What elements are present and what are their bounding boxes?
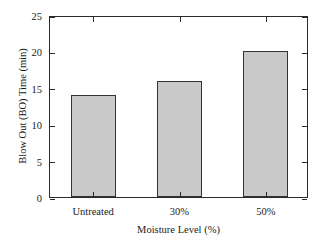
x-axis-tick — [180, 192, 181, 197]
y-axis-tick — [50, 17, 55, 18]
x-axis-tick-label: Untreated — [50, 206, 136, 217]
x-axis-tick-top — [180, 17, 181, 22]
x-axis-tick-top — [93, 17, 94, 22]
bar — [243, 51, 288, 197]
y-axis-tick-label: 25 — [32, 12, 43, 23]
y-axis-tick — [50, 89, 55, 90]
y-axis-tick-label: 5 — [37, 158, 42, 169]
y-axis-tick — [50, 199, 55, 200]
y-axis-tick — [50, 53, 55, 54]
y-axis-tick-label: 0 — [37, 194, 42, 205]
x-axis-tick — [266, 192, 267, 197]
bar-chart-figure: 0510152025Untreated30%50% Moisture Level… — [0, 0, 326, 243]
y-axis-tick-right — [302, 162, 307, 163]
y-axis-tick-right — [302, 89, 307, 90]
y-axis-tick — [50, 126, 55, 127]
x-axis-tick-top — [266, 17, 267, 22]
x-axis-tick — [93, 192, 94, 197]
plot-area: 0510152025Untreated30%50% — [49, 16, 308, 198]
y-axis-tick-right — [302, 17, 307, 18]
y-axis-tick-label: 15 — [32, 85, 43, 96]
y-axis-tick-label: 10 — [32, 121, 43, 132]
y-axis-tick-right — [302, 199, 307, 200]
y-axis-tick — [50, 162, 55, 163]
bar — [71, 95, 116, 197]
x-axis-tick-label: 30% — [136, 206, 222, 217]
x-axis-title: Moisture Level (%) — [49, 224, 308, 236]
y-axis-tick-right — [302, 126, 307, 127]
y-axis-tick-label: 20 — [32, 48, 43, 59]
y-axis-title: Blow Out (BO) Time (min) — [17, 15, 29, 197]
y-axis-tick-right — [302, 53, 307, 54]
x-axis-tick-label: 50% — [223, 206, 309, 217]
bar — [157, 81, 202, 197]
